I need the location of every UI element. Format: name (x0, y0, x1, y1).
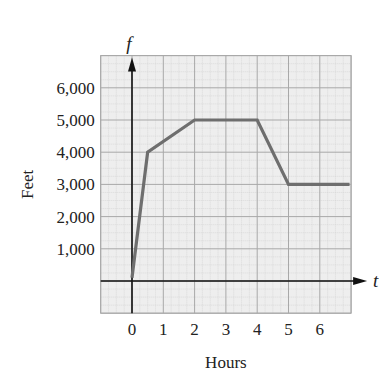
t-axis-arrow-icon (353, 277, 367, 285)
y-tick-label: 2,000 (56, 208, 94, 227)
x-tick-label: 2 (190, 320, 199, 339)
x-tick-label: 6 (316, 320, 325, 339)
x-tick-label: 0 (128, 320, 137, 339)
y-tick-label: 5,000 (56, 111, 94, 130)
x-tick-label: 3 (222, 320, 231, 339)
x-axis-title: Hours (205, 353, 247, 372)
y-tick-label: 1,000 (56, 240, 94, 259)
line-chart: 01234561,0002,0003,0004,0005,0006,000Hou… (0, 0, 379, 381)
x-tick-label: 4 (253, 320, 262, 339)
t-variable-label: t (373, 270, 379, 291)
y-tick-label: 4,000 (56, 143, 94, 162)
x-tick-label: 1 (159, 320, 168, 339)
y-axis-title: Feet (18, 169, 37, 199)
f-variable-label: f (126, 33, 134, 54)
x-tick-label: 5 (284, 320, 293, 339)
y-tick-label: 6,000 (56, 79, 94, 98)
y-tick-label: 3,000 (56, 175, 94, 194)
